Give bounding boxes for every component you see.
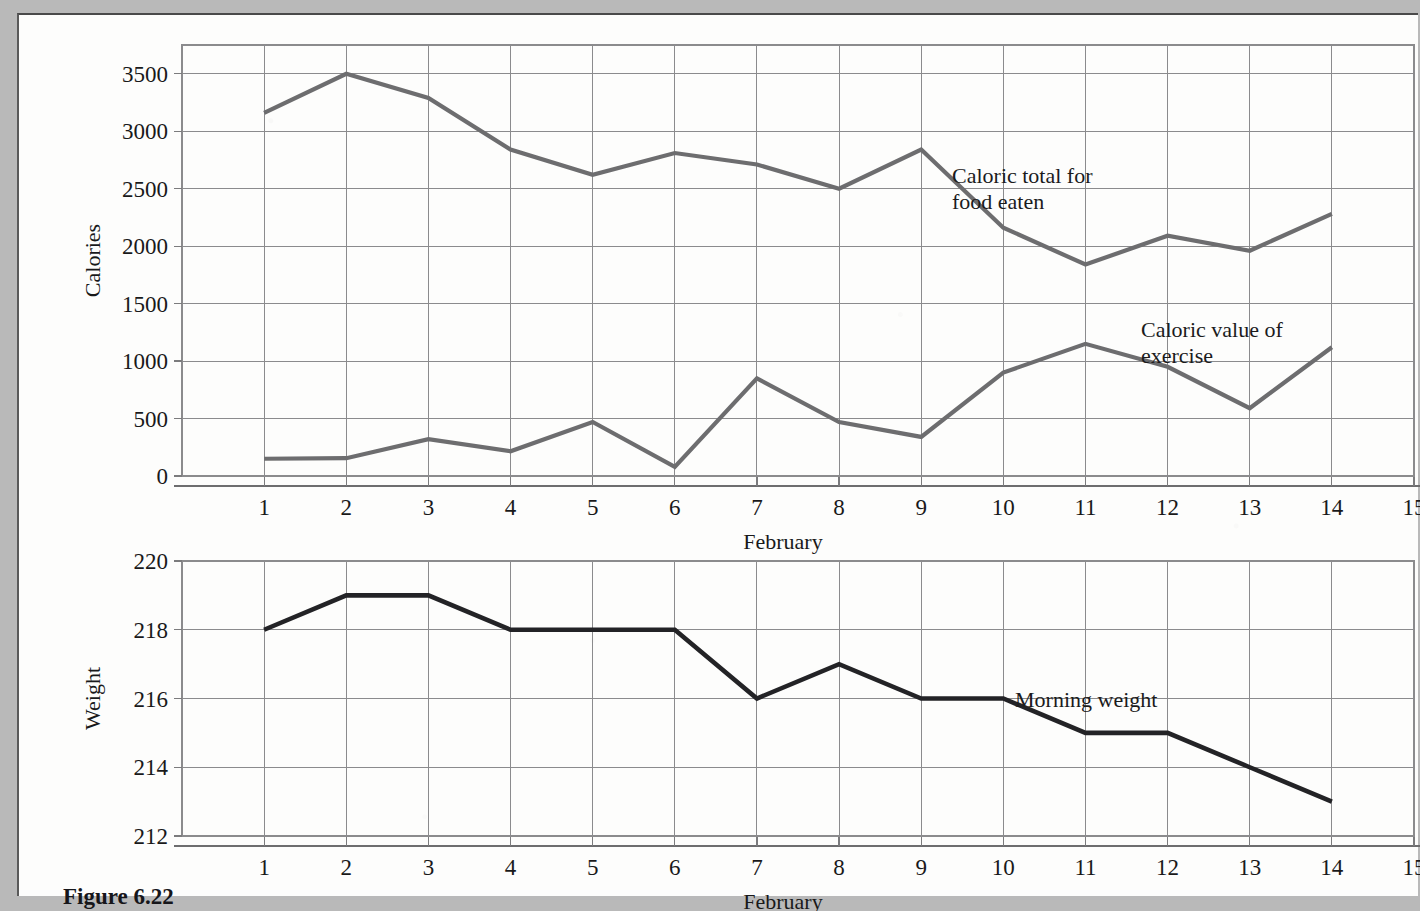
figure-caption: Figure 6.22 xyxy=(63,884,174,911)
plot-frame xyxy=(182,45,1414,476)
x-axis-tick-label: 1 xyxy=(258,855,270,880)
series-line-1 xyxy=(264,74,1332,265)
series-annotation-1: Morning weight xyxy=(1015,687,1157,712)
x-axis-tick-label: 3 xyxy=(423,855,435,880)
x-axis-tick-label: 14 xyxy=(1320,495,1344,520)
x-axis-tick-label: 5 xyxy=(587,495,599,520)
annotation-line-1: Morning weight xyxy=(1015,687,1157,712)
calories-chart: 0500100015002000250030003500123456789101… xyxy=(19,15,1420,535)
weight-chart-canvas: 212214216218220123456789101112131415Febr… xyxy=(19,530,1420,870)
y-axis-tick-label: 3500 xyxy=(122,62,168,87)
y-axis-tick-label: 216 xyxy=(134,687,169,712)
x-axis-tick-label: 2 xyxy=(341,495,353,520)
y-axis-tick-label: 1000 xyxy=(122,349,168,374)
annotation-line-1: Caloric value of xyxy=(1141,317,1283,342)
x-axis-tick-label: 9 xyxy=(915,855,927,880)
x-axis-tick-label: 7 xyxy=(751,855,763,880)
calories-chart-canvas: 0500100015002000250030003500123456789101… xyxy=(19,15,1420,535)
y-axis-tick-label: 214 xyxy=(134,755,169,780)
x-axis-tick-label: 11 xyxy=(1074,855,1096,880)
y-axis-tick-label: 2500 xyxy=(122,177,168,202)
y-axis-tick-label: 3000 xyxy=(122,119,168,144)
x-axis-tick-label: 7 xyxy=(751,495,763,520)
x-axis-tick-label: 10 xyxy=(992,855,1015,880)
x-axis-tick-label: 6 xyxy=(669,855,681,880)
x-axis-tick-label: 10 xyxy=(992,495,1015,520)
x-axis-tick-label: 6 xyxy=(669,495,681,520)
x-axis-title: February xyxy=(743,889,822,911)
annotation-line-2: exercise xyxy=(1141,343,1213,368)
y-axis-tick-label: 0 xyxy=(157,464,169,489)
weight-chart: 212214216218220123456789101112131415Febr… xyxy=(19,530,1420,870)
y-axis-tick-label: 1500 xyxy=(122,292,168,317)
page-sheet: 0500100015002000250030003500123456789101… xyxy=(17,13,1418,896)
y-axis-tick-label: 212 xyxy=(134,824,169,849)
annotation-line-1: Caloric total for xyxy=(952,163,1093,188)
x-axis-tick-label: 12 xyxy=(1156,495,1179,520)
x-axis-tick-label: 4 xyxy=(505,855,517,880)
x-axis-tick-label: 15 xyxy=(1403,855,1420,880)
x-axis-tick-label: 9 xyxy=(915,495,927,520)
x-axis-tick-label: 1 xyxy=(258,495,270,520)
x-axis-tick-label: 13 xyxy=(1238,855,1261,880)
x-axis-tick-label: 8 xyxy=(833,495,845,520)
x-axis-tick-label: 14 xyxy=(1320,855,1344,880)
x-axis-tick-label: 13 xyxy=(1238,495,1261,520)
x-axis-tick-label: 15 xyxy=(1403,495,1420,520)
x-axis-tick-label: 11 xyxy=(1074,495,1096,520)
series-annotation-2: Caloric value ofexercise xyxy=(1141,317,1283,368)
y-axis-title: Weight xyxy=(80,667,105,730)
x-axis-tick-label: 5 xyxy=(587,855,599,880)
x-axis-tick-label: 4 xyxy=(505,495,517,520)
x-axis-tick-label: 12 xyxy=(1156,855,1179,880)
y-axis-tick-label: 220 xyxy=(134,549,169,574)
y-axis-tick-label: 218 xyxy=(134,618,169,643)
y-axis-tick-label: 500 xyxy=(134,407,169,432)
x-axis-tick-label: 8 xyxy=(833,855,845,880)
x-axis-tick-label: 2 xyxy=(341,855,353,880)
y-axis-tick-label: 2000 xyxy=(122,234,168,259)
x-axis-tick-label: 3 xyxy=(423,495,435,520)
y-axis-title: Calories xyxy=(80,224,105,297)
annotation-line-2: food eaten xyxy=(952,189,1044,214)
